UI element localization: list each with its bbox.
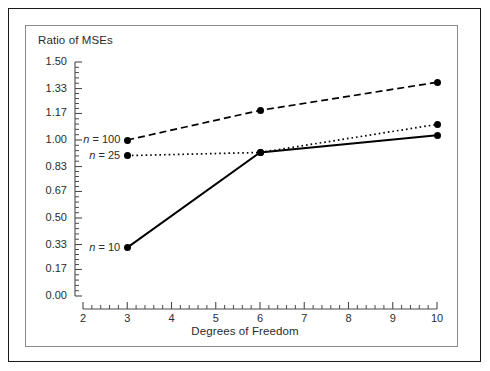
figure-canvas: Ratio of MSEs Degrees of Freedom 0.000.1… bbox=[0, 0, 490, 371]
inner-panel-border bbox=[25, 25, 458, 347]
